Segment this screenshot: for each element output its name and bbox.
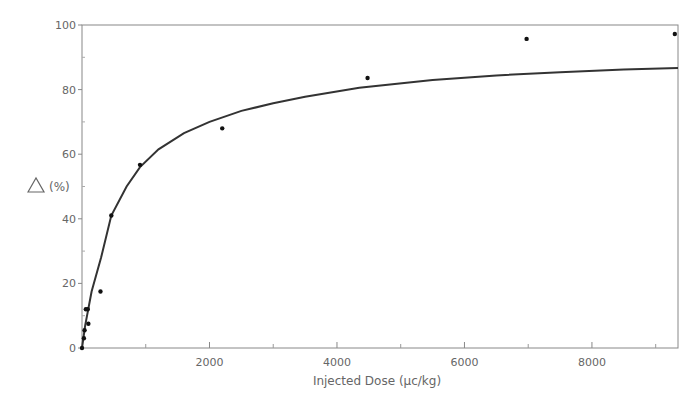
y-tick-label: 60 xyxy=(62,148,76,161)
data-point xyxy=(82,336,86,340)
y-tick-label: 0 xyxy=(69,342,76,355)
x-tick-label: 4000 xyxy=(323,356,351,369)
data-point xyxy=(82,328,86,332)
data-point xyxy=(138,163,142,167)
data-point xyxy=(109,213,113,217)
plot-frame xyxy=(82,25,678,348)
y-axis-title: (%) xyxy=(28,178,70,194)
data-point xyxy=(673,32,677,36)
data-point xyxy=(80,346,84,350)
y-tick-label: 80 xyxy=(62,84,76,97)
data-points xyxy=(80,32,677,350)
data-point xyxy=(365,76,369,80)
triangle-icon xyxy=(28,178,44,192)
data-point xyxy=(524,37,528,41)
data-point xyxy=(98,289,102,293)
x-tick-label: 2000 xyxy=(195,356,223,369)
y-tick-label: 40 xyxy=(62,213,76,226)
data-point xyxy=(86,307,90,311)
y-tick-label: 20 xyxy=(62,277,76,290)
fitted-curve xyxy=(82,68,678,348)
y-tick-label: 100 xyxy=(55,19,76,32)
x-axis: 2000400060008000 xyxy=(146,342,656,369)
x-tick-label: 6000 xyxy=(450,356,478,369)
chart: 020406080100 2000400060008000 (%) Inject… xyxy=(0,0,693,414)
y-axis-title-text: (%) xyxy=(49,180,70,194)
data-point xyxy=(220,126,224,130)
x-tick-label: 8000 xyxy=(578,356,606,369)
x-axis-title: Injected Dose (μc/kg) xyxy=(313,374,441,388)
data-point xyxy=(86,322,90,326)
